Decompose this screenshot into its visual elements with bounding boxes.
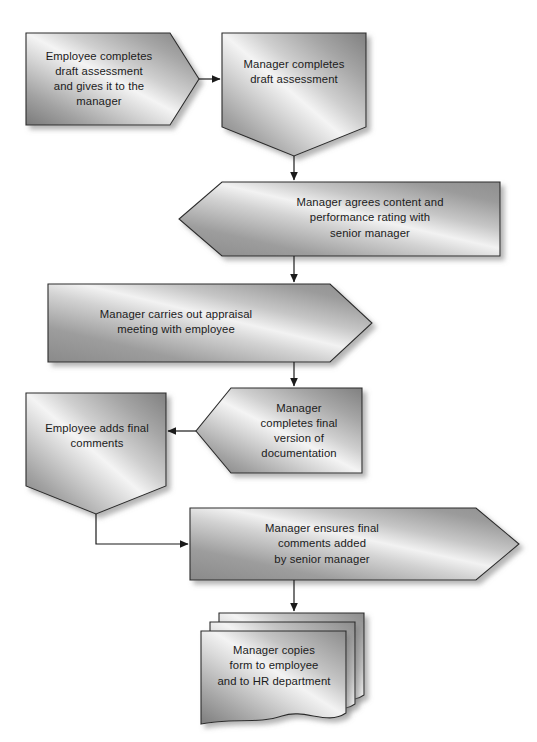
node-senior-manager-comments[interactable] (190, 508, 519, 580)
connector-employee-final-comments-to-senior-manager-comments (96, 514, 188, 544)
node-employee-draft[interactable] (26, 33, 199, 125)
node-manager-draft[interactable] (222, 33, 366, 156)
node-copies-form[interactable] (201, 613, 364, 724)
flowchart-canvas: Employee completes draft assessment and … (0, 0, 537, 742)
node-appraisal-meeting[interactable] (48, 284, 372, 362)
node-manager-agrees[interactable] (179, 182, 500, 256)
node-final-version[interactable] (196, 388, 362, 473)
flowchart-svg (0, 0, 537, 742)
node-employee-final-comments[interactable] (26, 393, 166, 514)
